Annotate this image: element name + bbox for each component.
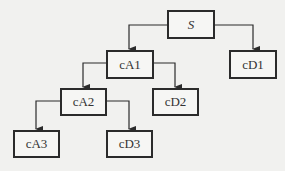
node-cD1: cD1: [229, 50, 277, 79]
node-label: cA2: [73, 94, 95, 110]
tree-diagram: S cA1 cD1 cA2 cD2 cA3 cD3: [0, 0, 285, 171]
node-S: S: [167, 10, 215, 39]
node-label: S: [188, 17, 195, 33]
edge-cA2-cA3: [36, 101, 60, 129]
node-label: cD3: [119, 136, 141, 152]
node-label: cD1: [242, 57, 264, 73]
node-label: cD2: [165, 94, 187, 110]
edge-cA1-cD2: [154, 63, 175, 87]
node-label: cA1: [119, 57, 141, 73]
node-label: cA3: [26, 136, 48, 152]
edge-cA2-cD3: [107, 101, 129, 129]
node-cA1: cA1: [106, 50, 154, 79]
node-cD2: cD2: [152, 88, 199, 116]
edge-S-cA1: [129, 25, 167, 49]
edge-cA1-cA2: [83, 63, 106, 87]
node-cA2: cA2: [60, 88, 107, 116]
node-cA3: cA3: [13, 130, 60, 158]
edge-S-cD1: [215, 25, 253, 49]
node-cD3: cD3: [106, 130, 153, 158]
